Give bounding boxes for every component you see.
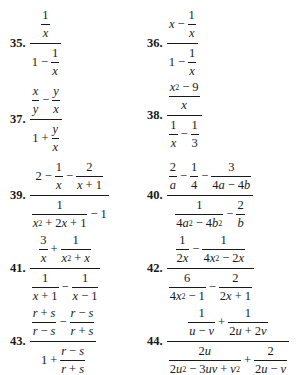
problem-number: 36. xyxy=(147,36,163,51)
complex-fraction: 2 a − 1 4 − 3 4a−4b 1 4a2−4b2 − 2 b xyxy=(167,160,254,231)
fraction: 1 4x2−2x xyxy=(202,233,245,266)
fraction: 1 x2+2x+1 xyxy=(32,198,88,231)
fraction: 1 x−1 xyxy=(72,271,99,304)
fraction: 1 2x xyxy=(176,233,190,266)
fraction: 1 3 xyxy=(191,118,199,151)
fraction: 1 x xyxy=(55,160,63,193)
fraction: 1 x+1 xyxy=(32,271,59,304)
fraction: 2 2u−v xyxy=(254,344,287,375)
complex-fraction: 3 x + 1 x2+x 1 x+1 − 1 x−1 xyxy=(30,233,101,304)
fraction: 3 4a−4b xyxy=(211,160,251,193)
complex-fraction: x− 1 x 1− 1 x xyxy=(167,8,199,79)
problem-40: 40. 2 a − 1 4 − 3 4a−4b 1 4a2−4b2 − xyxy=(147,160,253,231)
problem-38: 38. x2−9 x 1 x − 1 3 xyxy=(147,80,202,151)
complex-fraction: x y − y x 1+ y x xyxy=(30,84,62,155)
complex-fraction: 1 2x − 1 4x2−2x 6 4x2−1 − 2 2x+1 xyxy=(167,233,254,304)
problem-number: 41. xyxy=(10,261,26,276)
fraction: y x xyxy=(52,84,60,117)
fraction: 1 4a2−4b2 xyxy=(175,198,223,231)
fraction: y x xyxy=(52,122,60,155)
complex-fraction: 1 u−v + 1 2u+2v 2u 2u2−3uv+v2 + 2 2u−v xyxy=(167,306,289,375)
problem-37: 37. x y − y x 1+ y x xyxy=(10,84,62,155)
fraction: 6 4x2−1 xyxy=(169,271,206,304)
problem-number: 37. xyxy=(10,112,26,127)
fraction: 1 x xyxy=(41,8,49,41)
complex-fraction: x2−9 x 1 x − 1 3 xyxy=(167,80,202,151)
fraction: 1 2u+2v xyxy=(228,306,267,339)
complex-fraction: 1 x 1− 1 x xyxy=(30,8,62,79)
fraction: 2 a xyxy=(169,160,177,193)
fraction: x y xyxy=(32,84,40,117)
problem-36: 36. x− 1 x 1− 1 x xyxy=(147,8,198,79)
problem-number: 40. xyxy=(147,188,163,203)
fraction: 1 x xyxy=(188,46,196,79)
fraction: 1 u−v xyxy=(188,306,215,339)
complex-fraction: r+s r−s − r−s r+s 1+ r−s r+s xyxy=(30,306,97,375)
fraction: 1 x xyxy=(51,46,59,79)
problem-41: 41. 3 x + 1 x2+x 1 x+1 − 1 x−1 xyxy=(10,233,100,304)
fraction: r−s r+s xyxy=(60,344,85,375)
problem-43: 43. r+s r−s − r−s r+s 1+ r−s r+s xyxy=(10,306,96,375)
fraction: 2u 2u2−3uv+v2 xyxy=(169,344,241,375)
fraction: 1 x xyxy=(188,8,196,41)
problem-number: 39. xyxy=(10,188,26,203)
problem-number: 44. xyxy=(147,334,163,349)
fraction: 2 b xyxy=(236,198,244,231)
fraction: 2 2x+1 xyxy=(219,271,252,304)
fraction: 1 x xyxy=(169,118,177,151)
problem-39: 39. 2− 1 x − 2 x+1 1 x2+2x+1 −1 xyxy=(10,160,109,231)
problem-44: 44. 1 u−v + 1 2u+2v 2u 2u2−3uv+v2 + 2 2u… xyxy=(147,306,289,375)
fraction: r+s r−s xyxy=(32,306,57,339)
problem-number: 35. xyxy=(10,36,26,51)
problem-number: 38. xyxy=(147,108,163,123)
fraction: r−s r+s xyxy=(70,306,95,339)
problem-number: 43. xyxy=(10,334,26,349)
fraction: x2−9 x xyxy=(169,80,200,113)
problem-35: 35. 1 x 1− 1 x xyxy=(10,8,61,79)
problem-number: 42. xyxy=(147,261,163,276)
problem-42: 42. 1 2x − 1 4x2−2x 6 4x2−1 − 2 2x+1 xyxy=(147,233,254,304)
fraction: 1 4 xyxy=(190,160,198,193)
fraction: 1 x2+x xyxy=(61,233,91,266)
fraction: 2 x+1 xyxy=(76,160,103,193)
complex-fraction: 2− 1 x − 2 x+1 1 x2+2x+1 −1 xyxy=(30,160,109,231)
fraction: 3 x xyxy=(39,233,47,266)
